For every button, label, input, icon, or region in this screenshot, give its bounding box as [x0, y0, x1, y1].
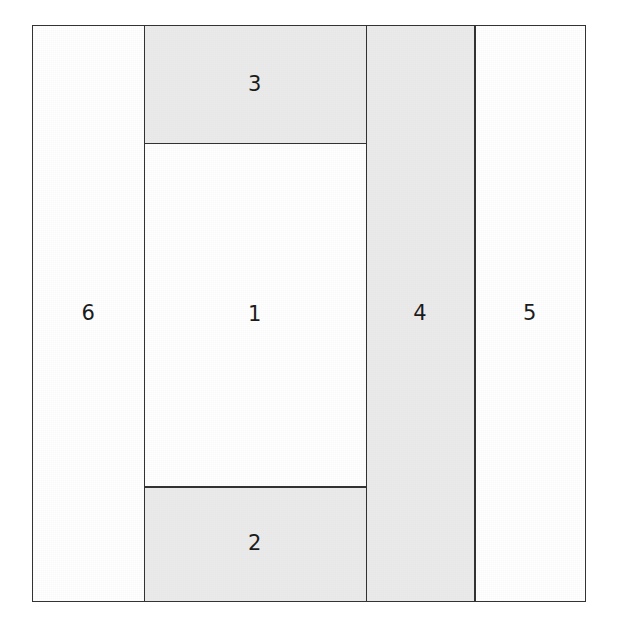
- region-2-label: 2: [248, 533, 262, 554]
- divider-v-6-1: [144, 26, 146, 601]
- region-6-label: 6: [82, 303, 96, 324]
- region-1-label: 1: [248, 304, 262, 325]
- region-6[interactable]: 6: [33, 26, 144, 601]
- diagram-canvas: 123456: [0, 0, 619, 631]
- divider-v-4-5: [474, 26, 476, 601]
- region-3-label: 3: [248, 74, 262, 95]
- region-4[interactable]: 4: [366, 26, 475, 601]
- divider-h-3-1: [144, 143, 366, 145]
- region-5[interactable]: 5: [474, 26, 585, 601]
- partition-frame: 123456: [32, 25, 586, 602]
- region-4-label: 4: [413, 303, 427, 324]
- region-1[interactable]: 1: [144, 143, 366, 487]
- divider-v-1-4: [366, 26, 368, 601]
- region-5-label: 5: [523, 303, 537, 324]
- divider-h-1-2: [144, 486, 366, 488]
- region-2[interactable]: 2: [144, 486, 366, 601]
- region-3[interactable]: 3: [144, 26, 366, 143]
